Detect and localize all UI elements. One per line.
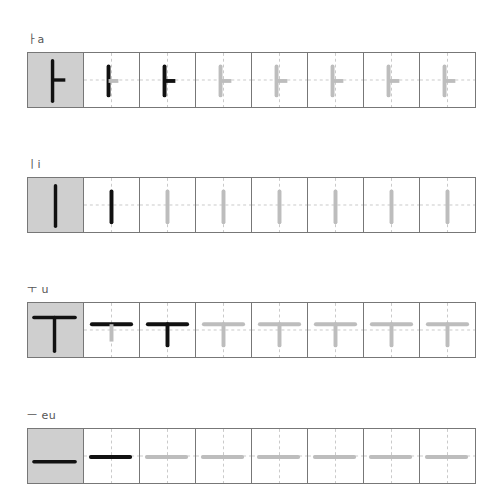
a-stroke-icon [84,53,139,107]
practice-cell[interactable] [140,53,196,107]
practice-cell[interactable] [196,178,252,232]
a-stroke-icon [28,53,83,107]
row-label-a: ㅏa [27,30,45,46]
practice-row-u [27,302,476,358]
practice-cell[interactable] [140,429,196,483]
i-stroke-icon [364,178,419,232]
practice-cell[interactable] [140,178,196,232]
a-stroke-icon [140,53,195,107]
i-stroke-icon [196,178,251,232]
practice-cell[interactable] [252,53,308,107]
eu-stroke-icon [364,429,419,483]
a-stroke-icon [196,53,251,107]
i-stroke-icon [28,178,83,232]
practice-cell[interactable] [420,303,475,357]
eu-stroke-icon [28,429,83,483]
practice-cell[interactable] [364,178,420,232]
eu-stroke-icon [420,429,475,483]
practice-cell[interactable] [420,53,475,107]
practice-cell[interactable] [420,178,475,232]
practice-cell[interactable] [84,429,140,483]
i-stroke-icon [84,178,139,232]
eu-stroke-icon [140,429,195,483]
eu-stroke-icon [308,429,363,483]
u-stroke-icon [28,303,83,357]
practice-cell[interactable] [364,53,420,107]
i-stroke-icon [308,178,363,232]
u-stroke-icon [196,303,251,357]
eu-stroke-icon [196,429,251,483]
practice-cell[interactable] [84,53,140,107]
a-stroke-icon [364,53,419,107]
practice-cell[interactable] [252,429,308,483]
i-stroke-icon [420,178,475,232]
practice-row-eu [27,428,476,484]
practice-cell[interactable] [308,53,364,107]
u-stroke-icon [84,303,139,357]
practice-cell[interactable] [196,429,252,483]
practice-cell[interactable] [308,303,364,357]
practice-cell[interactable] [140,303,196,357]
u-stroke-icon [140,303,195,357]
practice-cell[interactable] [364,429,420,483]
practice-cell[interactable] [84,178,140,232]
a-stroke-icon [420,53,475,107]
practice-cell[interactable] [364,303,420,357]
i-stroke-icon [140,178,195,232]
practice-cell[interactable] [420,429,475,483]
model-cell [28,178,84,232]
u-stroke-icon [364,303,419,357]
practice-cell[interactable] [308,178,364,232]
i-stroke-icon [252,178,307,232]
practice-cell[interactable] [252,303,308,357]
u-stroke-icon [308,303,363,357]
practice-row-i [27,177,476,233]
u-stroke-icon [420,303,475,357]
model-cell [28,429,84,483]
practice-cell[interactable] [252,178,308,232]
eu-stroke-icon [252,429,307,483]
a-stroke-icon [252,53,307,107]
practice-cell[interactable] [84,303,140,357]
row-label-u: ㅜ u [27,280,49,296]
row-label-i: ㅣi [27,155,41,171]
practice-cell[interactable] [308,429,364,483]
practice-cell[interactable] [196,53,252,107]
eu-stroke-icon [84,429,139,483]
u-stroke-icon [252,303,307,357]
a-stroke-icon [308,53,363,107]
practice-cell[interactable] [196,303,252,357]
practice-row-a [27,52,476,108]
model-cell [28,53,84,107]
model-cell [28,303,84,357]
row-label-eu: ㅡ eu [27,406,56,422]
